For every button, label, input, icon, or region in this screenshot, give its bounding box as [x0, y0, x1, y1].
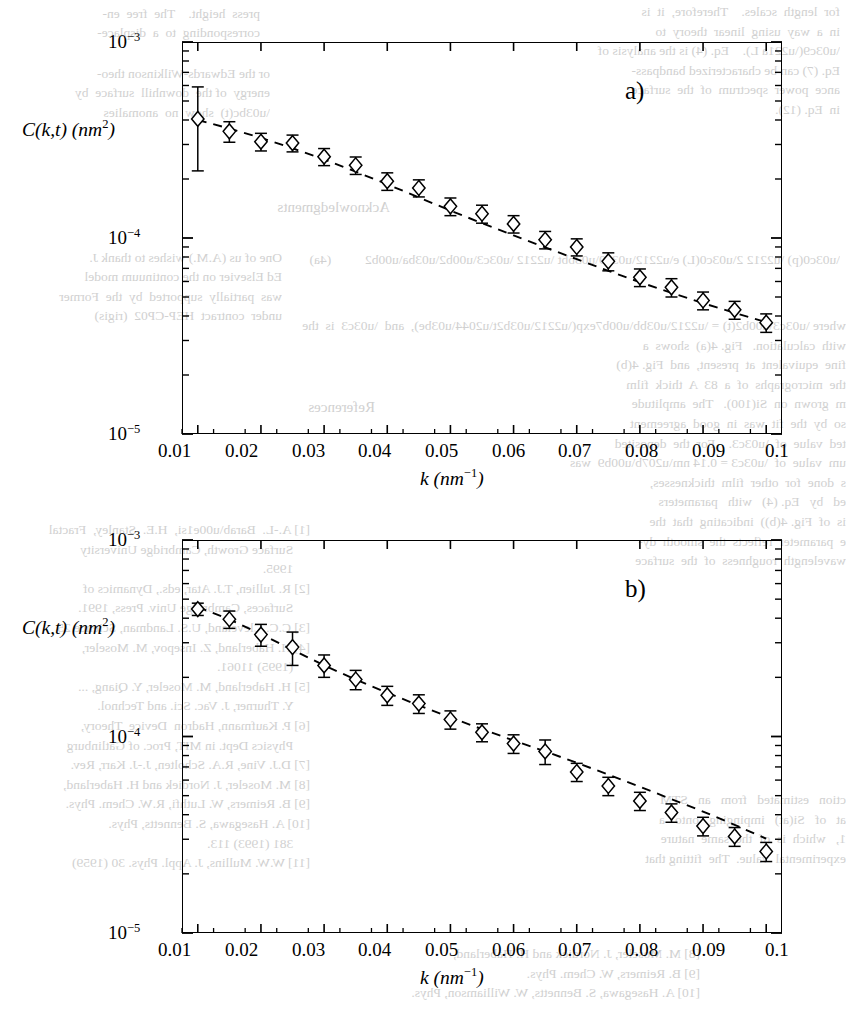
panel-a: 10−3 10−4 10−5 C(k,t) (nm2) a) 0.01 0.02…	[0, 0, 843, 500]
panel-b: 10−3 10−4 10−5 C(k,t) (nm2) b) 0.01 0.02…	[0, 498, 843, 1023]
panel-b-data-layer	[0, 498, 843, 1023]
panel-a-data-layer	[0, 0, 843, 500]
